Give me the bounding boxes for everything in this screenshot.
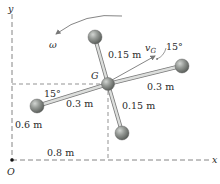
ball-right bbox=[175, 59, 189, 73]
ball-bottom bbox=[115, 126, 129, 140]
left-angle-label: 15° bbox=[44, 89, 61, 99]
diagram-canvas bbox=[0, 0, 220, 184]
velocity-label: vG bbox=[145, 43, 156, 55]
velocity-angle-arc bbox=[157, 48, 166, 59]
omega-arc-arrow bbox=[56, 15, 122, 34]
rigid-body-diagram: y x O ω G 0.15 m 0.3 m 0.3 m 0.15 m 0.6 … bbox=[0, 0, 220, 184]
center-of-mass-label: G bbox=[91, 71, 99, 81]
velocity-angle-label: 15° bbox=[166, 42, 183, 52]
velocity-subscript: G bbox=[150, 47, 156, 55]
omega-label: ω bbox=[49, 40, 57, 50]
origin-dot bbox=[10, 158, 14, 162]
x-axis-label: x bbox=[212, 155, 217, 165]
origin-label: O bbox=[7, 167, 15, 177]
dimension-rod-right: 0.3 m bbox=[147, 82, 174, 92]
y-axis-label: y bbox=[8, 4, 13, 14]
dimension-horizontal-G: 0.8 m bbox=[47, 148, 74, 158]
ball-top bbox=[88, 30, 102, 44]
ball-center-G bbox=[102, 78, 115, 91]
dimension-rod-top: 0.15 m bbox=[108, 50, 141, 60]
dimension-rod-bottom: 0.15 m bbox=[122, 101, 155, 111]
dimension-height-G: 0.6 m bbox=[15, 120, 42, 130]
ball-left bbox=[30, 99, 44, 113]
dimension-rod-left: 0.3 m bbox=[66, 99, 93, 109]
